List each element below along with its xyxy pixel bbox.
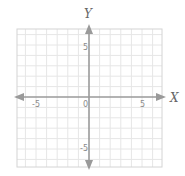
- y-tick-label-neg5: -5: [80, 145, 88, 153]
- coordinate-grid-svg: [0, 0, 185, 176]
- y-axis-down-arrow-icon: [85, 160, 93, 170]
- y-axis-title: Y: [84, 8, 92, 20]
- x-axis-title: X: [170, 92, 179, 104]
- y-tick-label-pos5: 5: [83, 44, 88, 52]
- x-axis-right-arrow-icon: [156, 93, 166, 101]
- x-tick-label-neg5: -5: [32, 101, 40, 109]
- origin-label: 0: [83, 101, 88, 109]
- x-tick-label-pos5: 5: [140, 101, 145, 109]
- coordinate-plane: Y X -5 0 5 5 -5: [0, 0, 185, 176]
- x-axis-left-arrow-icon: [14, 93, 24, 101]
